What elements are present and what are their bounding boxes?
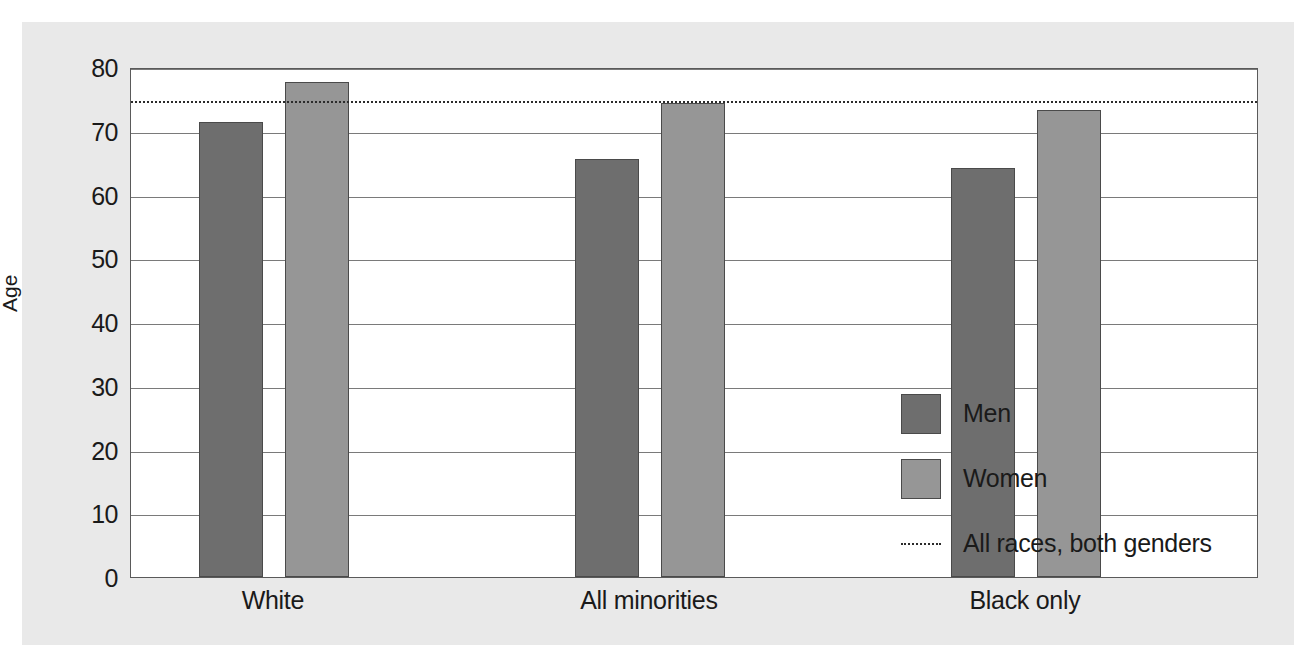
figure-bar-chart-life-expectancy: Age 01020304050607080 Men Women All race…	[0, 0, 1316, 667]
y-axis-tick-label: 10	[60, 500, 118, 529]
y-axis-tick-label: 50	[60, 245, 118, 274]
y-axis-tick-label: 60	[60, 181, 118, 210]
y-axis-tick-label: 0	[60, 564, 118, 593]
legend-item-women: Women	[901, 446, 1253, 511]
legend-swatch-men-icon	[901, 394, 941, 434]
y-axis-tick-label: 20	[60, 436, 118, 465]
y-axis-tick-label: 40	[60, 309, 118, 338]
bar-white-women	[285, 82, 349, 577]
x-axis-tick-label: All minorities	[580, 586, 718, 615]
y-axis-title: Age	[0, 275, 22, 312]
legend: Men Women All races, both genders	[901, 381, 1253, 576]
legend-label-reference-line: All races, both genders	[963, 529, 1212, 558]
y-axis-tick-label: 80	[60, 54, 118, 83]
legend-item-reference-line: All races, both genders	[901, 511, 1253, 576]
reference-line-all-races-both-genders	[131, 101, 1257, 103]
grid-line	[131, 69, 1257, 70]
y-axis-tick-label: 70	[60, 117, 118, 146]
plot-area: Men Women All races, both genders	[130, 68, 1258, 578]
bar-all-minorities-men	[575, 159, 639, 577]
x-axis-tick-label: White	[242, 586, 304, 615]
y-axis-tick-labels: 01020304050607080	[52, 68, 118, 578]
legend-swatch-women-icon	[901, 459, 941, 499]
bar-all-minorities-women	[661, 103, 725, 577]
x-axis-tick-label: Black only	[969, 586, 1080, 615]
legend-label-men: Men	[963, 399, 1011, 428]
bar-white-men	[199, 122, 263, 577]
legend-item-men: Men	[901, 381, 1253, 446]
legend-dotted-line-icon	[901, 543, 941, 545]
y-axis-tick-label: 30	[60, 372, 118, 401]
x-axis-tick-labels: WhiteAll minoritiesBlack only	[130, 586, 1258, 628]
legend-label-women: Women	[963, 464, 1047, 493]
